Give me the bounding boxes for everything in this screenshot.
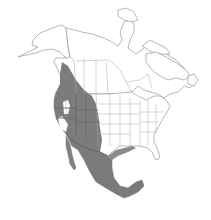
- newfoundland: [188, 74, 198, 86]
- alaska: [18, 25, 74, 61]
- arctic-island: [118, 8, 138, 22]
- north-america-map: [0, 0, 211, 220]
- range-map: [0, 0, 211, 220]
